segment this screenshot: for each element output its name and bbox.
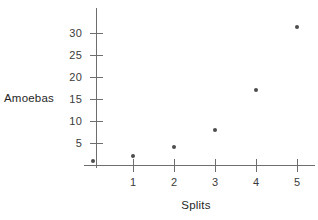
x-tick-2 <box>174 159 175 172</box>
y-axis-title: Amoebas <box>4 92 54 104</box>
x-tick-4 <box>256 159 257 172</box>
data-point <box>91 159 95 163</box>
y-tick-25 <box>90 55 103 56</box>
x-tick-5 <box>297 159 298 172</box>
x-axis-title: Splits <box>0 199 318 211</box>
data-point <box>172 145 176 149</box>
y-tick-15 <box>90 99 103 100</box>
y-tick-label-25: 25 <box>42 50 82 61</box>
x-tick-label-2: 2 <box>164 177 184 188</box>
y-tick-label-30: 30 <box>42 28 82 39</box>
scatter-chart-figure: 30 25 20 15 10 5 1 2 3 4 5 Amoebas Split… <box>0 0 318 220</box>
data-point <box>295 25 299 29</box>
y-tick-label-5: 5 <box>42 138 82 149</box>
data-point <box>131 154 135 158</box>
x-tick-3 <box>215 159 216 172</box>
x-tick-label-1: 1 <box>123 177 143 188</box>
x-tick-1 <box>133 159 134 172</box>
y-tick-5 <box>90 143 103 144</box>
y-tick-20 <box>90 77 103 78</box>
y-axis-line <box>96 8 97 168</box>
y-tick-10 <box>90 121 103 122</box>
x-axis-title-text: Splits <box>181 199 210 211</box>
x-axis-line <box>84 165 315 166</box>
y-tick-label-20: 20 <box>42 72 82 83</box>
y-tick-30 <box>90 33 103 34</box>
x-tick-label-3: 3 <box>205 177 225 188</box>
y-tick-label-10: 10 <box>42 116 82 127</box>
x-tick-label-4: 4 <box>246 177 266 188</box>
x-tick-label-5: 5 <box>287 177 307 188</box>
data-point <box>254 88 258 92</box>
data-point <box>213 128 217 132</box>
